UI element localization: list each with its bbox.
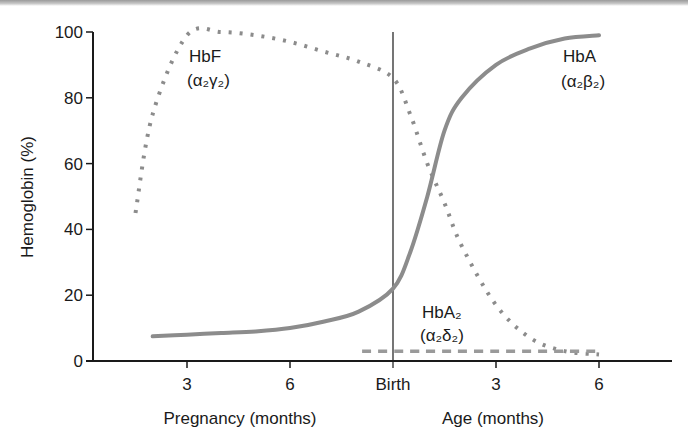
x-tick-label: 3 xyxy=(491,375,500,394)
y-tick-label: 0 xyxy=(74,352,83,371)
hba2-label: HbA₂ xyxy=(422,303,462,322)
y-axis-title: Hemoglobin (%) xyxy=(18,136,37,258)
y-tick-label: 100 xyxy=(55,23,83,42)
hbf-subunits-label: (α₂γ₂) xyxy=(187,71,230,90)
hbf-label: HbF xyxy=(189,47,221,66)
x-tick-label: Birth xyxy=(376,375,411,394)
y-tick-label: 60 xyxy=(64,155,83,174)
x-tick-label: 6 xyxy=(285,375,294,394)
hba-label: HbA xyxy=(563,47,597,66)
y-ticks: 020406080100 xyxy=(55,23,93,371)
x-axis-title-age: Age (months) xyxy=(442,409,544,428)
y-tick-label: 20 xyxy=(64,286,83,305)
y-tick-label: 40 xyxy=(64,220,83,239)
x-axis-title-pregnancy: Pregnancy (months) xyxy=(163,409,316,428)
hba2-subunits-label: (α₂δ₂) xyxy=(420,326,464,345)
x-tick-label: 3 xyxy=(182,375,191,394)
x-tick-label: 6 xyxy=(594,375,603,394)
hba-subunits-label: (α₂β₂) xyxy=(561,72,605,91)
hemoglobin-chart: 020406080100 36Birth36 Hemoglobin (%) Pr… xyxy=(0,0,688,447)
y-tick-label: 80 xyxy=(64,89,83,108)
